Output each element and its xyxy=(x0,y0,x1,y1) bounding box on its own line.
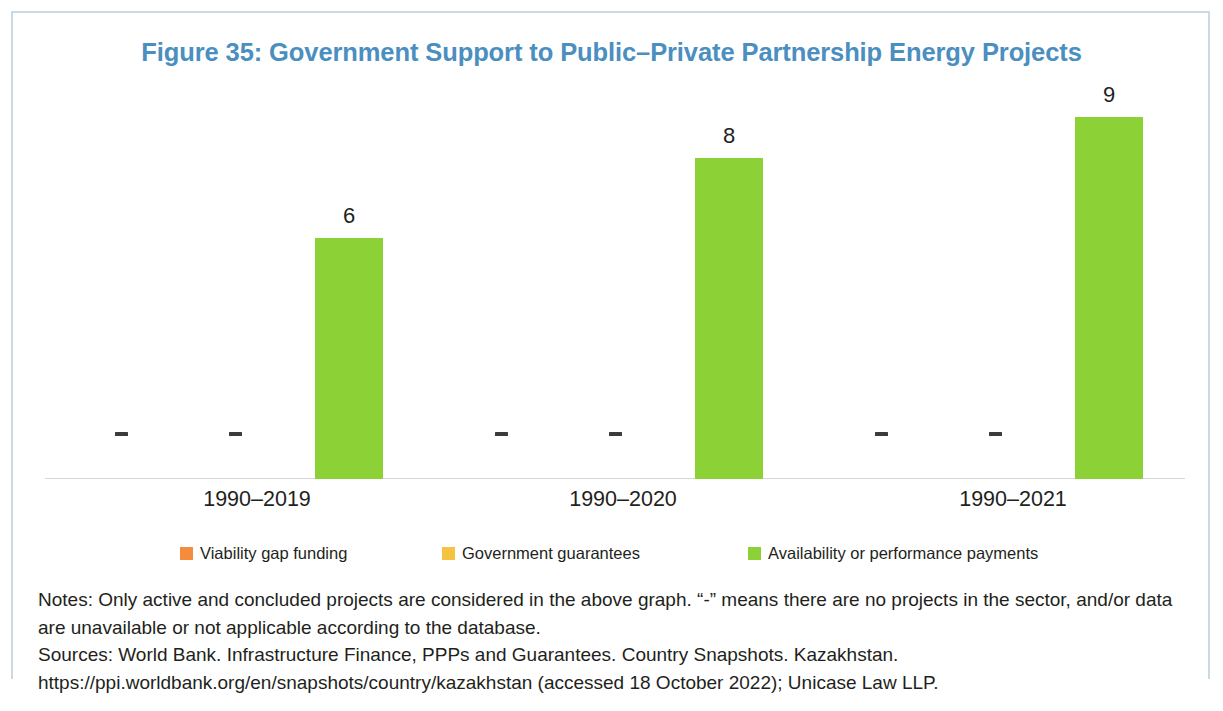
bar-value-label: 6 xyxy=(292,203,406,229)
bar-group-1990-2021: 9 xyxy=(805,85,1185,479)
legend-item-availability-payments: Availability or performance payments xyxy=(748,544,1038,563)
chart-title: Figure 35: Government Support to Public–… xyxy=(0,38,1223,67)
bar-slot-availability-payments-2: 8 xyxy=(672,85,786,479)
legend-label: Availability or performance payments xyxy=(768,544,1038,563)
legend-swatch-icon xyxy=(180,547,193,560)
legend-label: Government guarantees xyxy=(462,544,640,563)
missing-value-dash xyxy=(875,432,888,436)
x-tick-label-1990-2020: 1990–2020 xyxy=(569,487,677,512)
legend-item-viability-gap-funding: Viability gap funding xyxy=(180,544,347,563)
bar-slot-availability-payments-1: 6 xyxy=(292,85,406,479)
x-axis-labels: 1990–2019 1990–2020 1990–2021 xyxy=(45,487,1185,517)
figure-page: Figure 35: Government Support to Public–… xyxy=(0,0,1223,711)
chart-notes: Notes: Only active and concluded project… xyxy=(38,586,1203,641)
x-tick-label-1990-2019: 1990–2019 xyxy=(203,487,311,512)
bar-availability-payments-2 xyxy=(695,158,763,479)
figure-footnotes: Notes: Only active and concluded project… xyxy=(38,586,1203,696)
missing-value-dash xyxy=(115,432,128,436)
bar-slot-availability-payments-3: 9 xyxy=(1052,85,1166,479)
bar-group-1990-2019: 6 xyxy=(45,85,425,479)
bar-slot-viability-gap-funding-1 xyxy=(64,85,178,479)
bar-slot-government-guarantees-2 xyxy=(558,85,672,479)
missing-value-dash xyxy=(989,432,1002,436)
chart-sources: Sources: World Bank. Infrastructure Fina… xyxy=(38,641,1203,696)
bar-slot-government-guarantees-1 xyxy=(178,85,292,479)
legend-swatch-icon xyxy=(748,547,761,560)
legend-label: Viability gap funding xyxy=(200,544,347,563)
bar-availability-payments-1 xyxy=(315,238,383,479)
missing-value-dash xyxy=(229,432,242,436)
legend-item-government-guarantees: Government guarantees xyxy=(442,544,640,563)
bar-slot-viability-gap-funding-2 xyxy=(444,85,558,479)
missing-value-dash xyxy=(609,432,622,436)
chart-legend: Viability gap funding Government guarant… xyxy=(45,544,1185,568)
plot-area: 6 8 9 xyxy=(45,85,1185,479)
bar-group-1990-2020: 8 xyxy=(425,85,805,479)
bar-value-label: 8 xyxy=(672,123,786,149)
bar-availability-payments-3 xyxy=(1075,117,1143,479)
x-tick-label-1990-2021: 1990–2021 xyxy=(959,487,1067,512)
missing-value-dash xyxy=(495,432,508,436)
legend-swatch-icon xyxy=(442,547,455,560)
bar-value-label: 9 xyxy=(1052,82,1166,108)
bar-slot-government-guarantees-3 xyxy=(938,85,1052,479)
bar-slot-viability-gap-funding-3 xyxy=(824,85,938,479)
